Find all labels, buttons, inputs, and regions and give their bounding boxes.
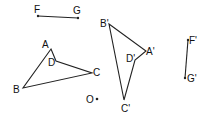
label-d-prime: D' (126, 53, 135, 64)
geometry-diagram: F G A D C B O B' A' D' C' F' G' (0, 0, 209, 116)
point-g (77, 17, 79, 19)
label-b-prime: B' (100, 18, 109, 29)
label-g-prime: G' (187, 73, 197, 84)
label-f-prime: F' (189, 35, 197, 46)
point-f (37, 15, 39, 17)
polygon-abcd (23, 49, 92, 88)
label-c: C (93, 67, 100, 78)
label-c-prime: C' (121, 103, 130, 114)
label-a-prime: A' (146, 46, 155, 57)
label-b: B (13, 84, 20, 95)
segment-fg (38, 16, 78, 18)
label-f: F (34, 4, 40, 15)
label-o: O (86, 94, 94, 105)
label-g: G (73, 5, 81, 16)
label-d: D (48, 57, 55, 68)
point-g-prime (184, 77, 186, 79)
point-o (96, 98, 99, 101)
label-a: A (42, 39, 49, 50)
